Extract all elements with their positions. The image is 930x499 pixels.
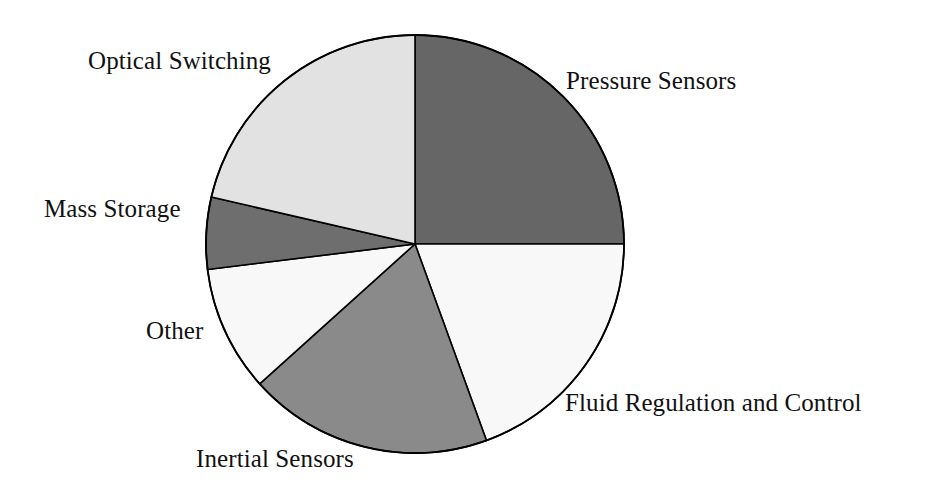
pie-chart-canvas bbox=[0, 0, 930, 499]
pie-label-pressure-sensors: Pressure Sensors bbox=[566, 68, 736, 94]
pie-label-fluid-regulation-and-control: Fluid Regulation and Control bbox=[565, 390, 862, 416]
pie-label-other: Other bbox=[146, 318, 203, 344]
pie-slice-group bbox=[206, 35, 624, 453]
pie-label-inertial-sensors: Inertial Sensors bbox=[196, 446, 354, 472]
pie-chart: Optical Switching Pressure Sensors Fluid… bbox=[0, 0, 930, 499]
pie-label-optical-switching: Optical Switching bbox=[88, 48, 271, 74]
pie-label-mass-storage: Mass Storage bbox=[44, 196, 181, 222]
